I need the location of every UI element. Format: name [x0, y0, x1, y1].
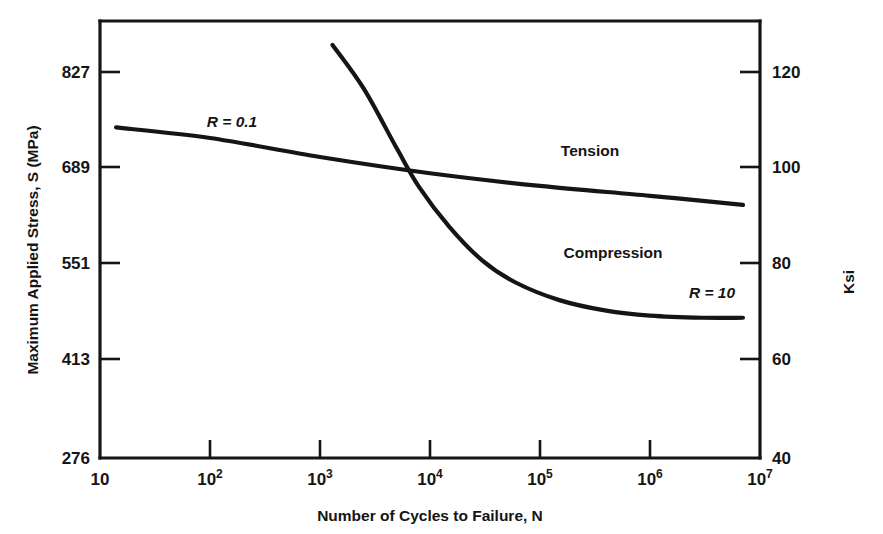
- x-axis-labels: 10 102 103 104 105 106 107: [91, 467, 774, 489]
- x-label-1e3: 103: [307, 467, 333, 489]
- y-label-left-413: 413: [62, 350, 90, 369]
- x-label-1e4: 104: [417, 467, 443, 489]
- y-axis-left-ticks: [100, 72, 120, 359]
- annotation-tension-series: Tension: [561, 142, 619, 159]
- annotation-tension-ratio: R = 0.1: [207, 113, 257, 130]
- annotation-compression-ratio: R = 10: [689, 284, 735, 301]
- y-label-right-60: 60: [772, 350, 791, 369]
- y-axis-right-labels: 120 100 80 60 40: [772, 63, 800, 468]
- x-axis-ticks: [210, 440, 650, 458]
- x-label-1e2: 102: [197, 467, 223, 489]
- y-axis-title-left: Maximum Applied Stress, S (MPa): [24, 125, 41, 374]
- y-label-right-40: 40: [772, 449, 791, 468]
- y-label-left-551: 551: [62, 254, 90, 273]
- y-axis-title-right: Ksi: [840, 270, 857, 294]
- sn-curve-chart: 827 689 551 413 276 120 100 80 60 40: [0, 0, 883, 534]
- x-label-1e7: 107: [747, 467, 773, 489]
- x-label-10: 10: [91, 470, 110, 489]
- y-label-left-276: 276: [62, 449, 90, 468]
- figure-container: 827 689 551 413 276 120 100 80 60 40: [0, 0, 883, 534]
- y-label-right-100: 100: [772, 158, 800, 177]
- y-label-right-120: 120: [772, 63, 800, 82]
- tension-curve: [116, 127, 743, 205]
- y-label-left-689: 689: [62, 158, 90, 177]
- y-axis-left-labels: 827 689 551 413 276: [62, 63, 90, 468]
- compression-curve: [333, 45, 743, 318]
- x-label-1e5: 105: [527, 467, 553, 489]
- annotation-compression-series: Compression: [563, 244, 662, 261]
- y-label-right-80: 80: [772, 254, 791, 273]
- x-label-1e6: 106: [637, 467, 663, 489]
- x-axis-title: Number of Cycles to Failure, N: [317, 507, 543, 524]
- y-label-left-827: 827: [62, 63, 90, 82]
